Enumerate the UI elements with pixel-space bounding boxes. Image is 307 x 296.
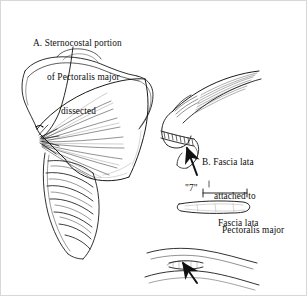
arrow-to-thigh-incision <box>183 263 197 283</box>
label-b: B. Fascia lata attached to Pectoralis ma… <box>202 134 284 259</box>
medical-illustration-figure: A. Sternocostal portion of Pectoralis ma… <box>0 0 307 296</box>
label-a-line1: A. Sternocostal portion <box>33 38 122 49</box>
label-a-line2: of Pectoralis major <box>33 72 122 83</box>
label-b-line2: attached to <box>202 191 284 202</box>
label-a-line3: dissected <box>33 106 122 117</box>
measurement-label: "7" <box>185 183 198 194</box>
label-a: A. Sternocostal portion of Pectoralis ma… <box>33 15 122 140</box>
label-b-line1: B. Fascia lata <box>202 157 284 168</box>
fascia-lata-label: Fascia lata <box>218 218 259 229</box>
suture-stitches <box>164 132 193 145</box>
arrow-to-fascia <box>187 148 197 175</box>
